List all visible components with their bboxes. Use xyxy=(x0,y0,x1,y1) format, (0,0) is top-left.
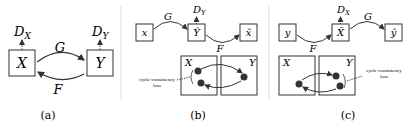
loss-pointer xyxy=(177,77,190,80)
domain-x-label: X xyxy=(184,57,193,68)
sample-y xyxy=(333,73,340,80)
g-label: G xyxy=(164,11,172,22)
loss-label: cycle-consistency xyxy=(366,68,402,73)
loss-label: loss xyxy=(380,74,388,79)
loss-label: loss xyxy=(153,83,161,88)
sample-x xyxy=(195,68,202,75)
sample-y xyxy=(241,74,248,81)
f-label: F xyxy=(309,43,318,54)
g-arrow xyxy=(350,22,384,30)
loss-label: cycle-consistency xyxy=(139,77,175,82)
panel-a: X Y DX DY G F (a) xyxy=(9,24,113,122)
panel-c: y X̂ ŷ F G DX X Y cycle-consistency loss… xyxy=(279,4,402,122)
f-label: F xyxy=(216,43,225,54)
reconstruction-x xyxy=(198,80,205,87)
node-x-label: X xyxy=(16,55,28,71)
dx-label: DX xyxy=(336,4,351,17)
caption-c: (c) xyxy=(341,109,356,122)
caption-b: (b) xyxy=(190,109,206,122)
domain-y-label: Y xyxy=(346,57,354,68)
g-label: G xyxy=(364,11,372,22)
g-arrow xyxy=(154,22,187,30)
g-label: G xyxy=(55,40,65,55)
dx-label: DX xyxy=(13,24,31,41)
dy-label: DY xyxy=(91,24,109,41)
node-xhat-label: X̂ xyxy=(336,27,345,38)
f-arrow xyxy=(297,35,331,43)
panel-b: x Ŷ x̂ G F DY X Y cycle-consistency loss… xyxy=(136,4,257,122)
node-y-label: y xyxy=(284,27,291,38)
dy-label: DY xyxy=(192,4,207,17)
f-map-arrow xyxy=(205,81,241,88)
sample-x xyxy=(296,81,303,88)
caption-a: (a) xyxy=(40,109,55,122)
f-label: F xyxy=(52,82,63,97)
g-map-arrow xyxy=(302,73,332,80)
node-yhat-label: Ŷ xyxy=(193,27,201,38)
cyclegan-diagram: X Y DX DY G F (a) x Ŷ x̂ G F DY X Y xyxy=(0,0,408,128)
domain-y-label: Y xyxy=(249,57,257,68)
f-arrow xyxy=(38,72,84,80)
node-x-label: x xyxy=(142,27,148,38)
node-yhat-label: ŷ xyxy=(390,27,397,38)
node-y-label: Y xyxy=(95,55,106,71)
loss-brace xyxy=(191,70,193,84)
domain-x-label: X xyxy=(282,57,291,68)
node-xhat-label: x̂ xyxy=(246,27,252,38)
reconstruction-y xyxy=(337,83,344,90)
f-arrow xyxy=(206,35,239,43)
